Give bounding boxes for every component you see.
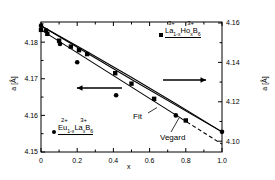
plot-canvas: 00.20.40.60.81.04.184.174.164.154.164.14…	[0, 0, 275, 180]
data-point-marker	[114, 93, 119, 98]
data-point-marker	[75, 60, 80, 65]
x-tick-label: 0.4	[109, 157, 119, 164]
data-point-marker	[152, 97, 156, 101]
y-tick-left-label: 4.15	[24, 148, 38, 155]
x-tick-label: 0.8	[181, 157, 191, 164]
y-tick-right-label: 4.12	[226, 98, 240, 105]
data-point-marker	[174, 113, 179, 118]
data-point-marker	[69, 44, 73, 48]
data-point-marker	[44, 28, 49, 33]
legend-top-marker	[159, 33, 163, 37]
data-point-marker	[113, 71, 117, 75]
data-point-marker	[39, 28, 43, 32]
y-tick-left-label: 4.17	[24, 75, 38, 82]
left-arrow-head	[77, 85, 83, 91]
trend-line-vegard	[41, 26, 222, 132]
data-point-marker	[184, 118, 188, 122]
trend-line-ho-dashed	[187, 122, 222, 144]
x-tick-label: 0	[39, 157, 43, 164]
trend-line-ho-solid	[41, 30, 187, 122]
figure-lattice-parameter-plot: 00.20.40.60.81.04.184.174.164.154.164.14…	[0, 0, 275, 180]
fit-leader-line	[148, 108, 157, 114]
x-axis-label: x	[127, 163, 131, 170]
vegard-leader-line	[171, 118, 179, 132]
legend-bottom-formula: Eu1-xLaxB6	[58, 124, 93, 135]
data-point-marker	[58, 42, 63, 47]
x-tick-label: 1.0	[217, 157, 227, 164]
fit-line-label: Fit	[133, 113, 142, 121]
x-tick-label: 0.6	[145, 157, 155, 164]
data-point-marker	[220, 130, 225, 135]
data-point-marker	[129, 81, 133, 85]
data-point-marker	[39, 23, 44, 28]
data-point-marker	[85, 52, 89, 56]
y-tick-left-label: 4.18	[24, 39, 38, 46]
legend-top-formula: La1-xHoxB6	[165, 27, 201, 38]
y-tick-left-label: 4.16	[24, 112, 38, 119]
legend-la-ho-b6: 3+ 3+ La1-xHoxB6	[159, 20, 201, 37]
legend-eu-la-b6: 2+ 3+ Eu1-xLaxB6	[52, 117, 93, 134]
right-arrow-head	[201, 77, 207, 83]
x-tick-label: 0.2	[72, 157, 82, 164]
data-point-marker	[77, 48, 81, 52]
vegard-line-label: Vegard	[160, 134, 185, 142]
y-axis-right-label: a [Å]	[261, 67, 268, 101]
y-tick-right-label: 4.10	[226, 138, 240, 145]
y-tick-right-label: 4.16	[226, 19, 240, 26]
y-tick-right-label: 4.14	[226, 59, 240, 66]
legend-bottom-marker	[52, 130, 56, 134]
y-axis-left-label: a [Å]	[10, 67, 17, 101]
